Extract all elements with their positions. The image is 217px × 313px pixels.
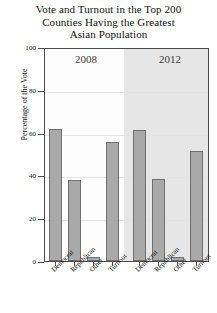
chart-title: Vote and Turnout in the Top 200 Counties… bbox=[8, 3, 209, 41]
bar-2012-turnout bbox=[190, 151, 203, 261]
y-tick-label: 40 bbox=[10, 172, 36, 180]
gridline bbox=[45, 177, 208, 178]
gridline bbox=[45, 135, 208, 136]
y-tick-label: 20 bbox=[10, 215, 36, 223]
bar-2008-democrat bbox=[49, 129, 62, 261]
gridline bbox=[45, 92, 208, 93]
y-tick-label: 100 bbox=[10, 44, 36, 52]
chart-title-line-2: Counties Having the Greatest bbox=[8, 16, 209, 29]
bar-2008-turnout bbox=[106, 142, 119, 261]
chart-title-line-1: Vote and Turnout in the Top 200 bbox=[8, 3, 209, 16]
bar-2012-democrat bbox=[133, 130, 146, 261]
y-tick-label: 80 bbox=[10, 87, 36, 95]
plot-area: 2008 2012 bbox=[44, 48, 209, 262]
y-tick-mark bbox=[38, 262, 44, 263]
group-label-2008: 2008 bbox=[51, 53, 121, 65]
chart-title-line-3: Asian Population bbox=[8, 28, 209, 41]
y-axis-title: Percentage of the Vote bbox=[20, 35, 29, 175]
chart-figure: Vote and Turnout in the Top 200 Counties… bbox=[0, 0, 217, 313]
y-tick-label: 0 bbox=[10, 258, 36, 266]
group-label-2012: 2012 bbox=[135, 53, 205, 65]
y-tick-label: 60 bbox=[10, 130, 36, 138]
